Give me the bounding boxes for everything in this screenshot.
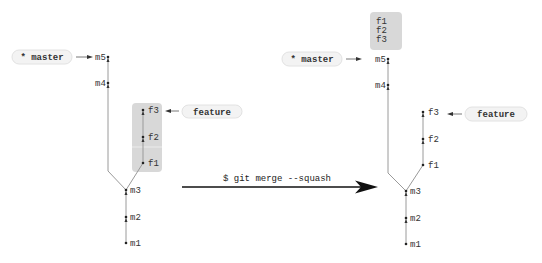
commit-m5: m5: [95, 53, 110, 63]
commit-label: m5: [375, 55, 386, 65]
squashed-change-f3: f3: [376, 35, 387, 45]
commit-dot: [405, 217, 408, 220]
git-squash-merge-diagram: * master m5 m4 m3 m2 m1: [0, 0, 542, 263]
commit-label: m2: [410, 214, 421, 224]
commit-dot: [142, 162, 145, 165]
master-edge: [108, 57, 126, 190]
commit-label: f3: [428, 108, 439, 118]
commit-dot: [405, 243, 408, 246]
arrow-up-icon: [387, 60, 390, 64]
arrow-up-icon: [405, 219, 408, 223]
master-edge: [388, 59, 406, 191]
commit-label: f2: [428, 135, 439, 145]
commit-label: m4: [375, 81, 386, 91]
before-graph: * master m5 m4 m3 m2 m1: [12, 50, 242, 249]
commit-label: m3: [130, 186, 141, 196]
feature-ref-label: feature: [193, 108, 231, 118]
commit-label: f2: [148, 133, 159, 143]
arrow-left-icon: [447, 112, 453, 116]
commit-dot: [107, 82, 110, 85]
commit-m4: m4: [95, 79, 110, 89]
commit-f2: f2: [422, 135, 439, 145]
commit-label: f1: [148, 159, 159, 169]
after-graph: f1 f2 f3 * master m5 m4 m3: [282, 12, 527, 250]
master-ref-label: * master: [20, 53, 63, 63]
commit-label: m2: [130, 213, 141, 223]
commit-dot: [422, 138, 425, 141]
commit-label: m1: [130, 239, 141, 249]
commit-dot: [142, 136, 145, 139]
arrow-left-icon: [165, 109, 171, 113]
commit-dot: [125, 216, 128, 219]
commit-label: f3: [148, 106, 159, 116]
commit-m2: m2: [405, 214, 421, 224]
master-ref-label: * master: [290, 55, 333, 65]
feature-edge: [406, 112, 423, 191]
commit-dot: [125, 242, 128, 245]
commit-label: m5: [95, 53, 106, 63]
commit-f1: f1: [422, 161, 439, 171]
commit-dot: [142, 109, 145, 112]
commit-dot: [422, 111, 425, 114]
commit-dot: [422, 164, 425, 167]
feature-ref-label: feature: [477, 110, 515, 120]
commit-dot: [125, 189, 128, 192]
arrow-right-icon: [87, 55, 93, 59]
arrow-up-icon: [387, 86, 390, 90]
arrow-up-icon: [107, 58, 110, 62]
commit-m2: m2: [125, 213, 141, 223]
commit-m4: m4: [375, 81, 390, 91]
arrow-up-icon: [422, 113, 425, 117]
command-text: $ git merge --squash: [223, 174, 331, 184]
commit-label: f1: [428, 161, 439, 171]
command-transition: $ git merge --squash: [182, 174, 378, 194]
commit-dot: [387, 84, 390, 87]
commit-m5: m5: [375, 55, 390, 65]
arrow-up-icon: [125, 191, 128, 195]
commit-dot: [405, 190, 408, 193]
commit-label: m3: [410, 187, 421, 197]
commit-dot: [107, 56, 110, 59]
commit-label: m1: [410, 240, 421, 250]
arrow-up-icon: [405, 192, 408, 196]
arrow-up-icon: [422, 140, 425, 144]
commit-m3: m3: [405, 187, 421, 197]
commit-dot: [387, 58, 390, 61]
commit-m3: m3: [125, 186, 141, 196]
arrow-up-icon: [125, 218, 128, 222]
commit-label: m4: [95, 79, 106, 89]
commit-m1: m1: [405, 240, 421, 250]
arrow-up-icon: [107, 84, 110, 88]
arrow-right-icon: [356, 57, 362, 61]
commit-m1: m1: [125, 239, 141, 249]
commit-f3: f3: [422, 108, 439, 118]
